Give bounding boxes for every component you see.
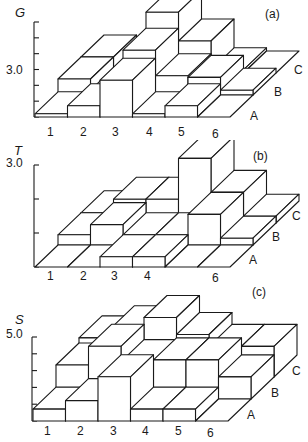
chart-panel-c: S 5.0 (c) 1 2 3 4 5 6 A B C [0,285,308,442]
y-tick-label: 5.0 [6,328,23,340]
x-tick-label: 3 [112,126,119,138]
bar3d-chart-a [0,0,308,140]
chart-panel-b: T 3.0 (b) 1 2 3 4 6 A B C [0,140,308,285]
bar-face [221,238,254,245]
bar-face [219,377,252,399]
y-tick-label: 3.0 [6,64,23,76]
x-tick-label: 4 [144,270,151,282]
x-tick-label: 3 [111,270,118,282]
bar-face [221,90,254,95]
x-tick-label: 6 [212,128,219,140]
row-label: B [272,231,280,243]
row-label: C [294,64,303,76]
bar-face [165,106,198,117]
x-tick-label: 1 [47,126,54,138]
bar-face [133,257,166,267]
bar-face [68,106,101,117]
row-label: A [249,254,257,266]
x-tick-label: 6 [207,427,214,439]
bar-face [98,377,131,421]
bar-face [163,409,196,421]
panel-tag: (b) [253,150,268,162]
x-tick-label: 4 [146,126,153,138]
bar-face [131,409,164,421]
x-tick-label: 5 [175,425,182,437]
bar-face [58,235,91,245]
bar3d-chart-c [0,285,308,442]
x-tick-label: 1 [47,270,54,282]
row-label: C [292,365,301,377]
y-axis-label: G [15,6,25,19]
bar-face [100,257,133,267]
x-tick-label: 4 [142,425,149,437]
x-tick-label: 1 [44,425,51,437]
row-label: A [250,110,258,122]
x-tick-label: 5 [178,126,185,138]
bar-face [35,114,68,117]
y-tick-label: 3.0 [6,157,23,169]
x-tick-label: 6 [212,272,219,284]
row-label: B [274,86,282,98]
y-axis-label: S [15,313,24,326]
panel-tag: (c) [252,286,266,298]
row-label: C [292,210,301,222]
bar-face [188,214,221,245]
x-tick-label: 2 [77,425,84,437]
chart-panel-a: G 3.0 (a) 1 2 3 4 5 6 A B C [0,0,308,140]
row-label: A [247,409,255,421]
bar-face [33,409,66,421]
bar-face [100,80,133,117]
x-tick-label: 2 [80,270,87,282]
bar-face [66,401,99,421]
bar-face [133,114,166,117]
row-label: B [271,387,279,399]
panel-tag: (a) [265,8,280,20]
x-tick-label: 2 [80,126,87,138]
x-tick-label: 3 [110,425,117,437]
